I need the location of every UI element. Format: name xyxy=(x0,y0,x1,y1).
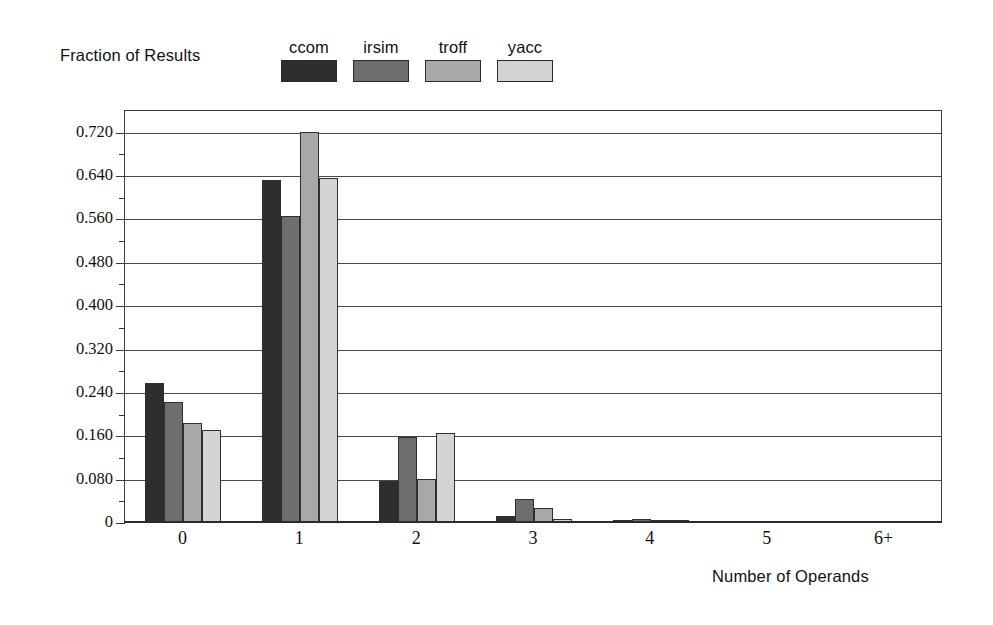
bar-yacc-2 xyxy=(436,433,455,522)
bar-troff-1 xyxy=(300,132,319,522)
legend-label-irsim: irsim xyxy=(363,38,398,57)
bar-group-2 xyxy=(379,111,455,522)
y-axis-tick-label: 0.640 xyxy=(76,165,113,185)
y-axis-tick-labels: 00.0800.1600.2400.3200.4000.4800.5600.64… xyxy=(0,110,113,522)
bar-group-3 xyxy=(496,111,572,522)
bar-ccom-1 xyxy=(262,180,281,522)
y-axis-minor-tick xyxy=(119,154,125,155)
x-axis-tick-labels: 0123456+ xyxy=(124,528,942,558)
bar-irsim-2 xyxy=(398,437,417,522)
y-axis-tick-label: 0.720 xyxy=(76,122,113,142)
x-axis-tick-label: 0 xyxy=(178,528,187,549)
y-axis-minor-tick xyxy=(119,501,125,502)
bar-troff-0 xyxy=(183,423,202,522)
x-axis-tick-label: 2 xyxy=(412,528,421,549)
bar-group-6plus xyxy=(847,111,923,522)
y-axis-minor-tick xyxy=(119,241,125,242)
y-axis-tick xyxy=(116,219,125,220)
bar-troff-2 xyxy=(417,479,436,522)
legend-entry-irsim: irsim xyxy=(350,38,412,82)
legend-swatch-irsim xyxy=(353,60,409,82)
plot-area xyxy=(124,110,942,522)
x-axis-line xyxy=(124,521,942,523)
x-axis-title: Number of Operands xyxy=(712,567,869,586)
bar-irsim-1 xyxy=(281,216,300,522)
legend-label-yacc: yacc xyxy=(508,38,542,57)
bar-ccom-0 xyxy=(145,383,164,522)
y-axis-tick xyxy=(116,350,125,351)
bar-ccom-2 xyxy=(379,481,398,522)
x-axis-tick-label: 1 xyxy=(295,528,304,549)
bar-irsim-3 xyxy=(515,499,534,522)
bar-irsim-0 xyxy=(164,402,183,522)
y-axis-tick-label: 0.560 xyxy=(76,208,113,228)
plot-inner xyxy=(125,111,941,522)
legend-swatch-troff xyxy=(425,60,481,82)
y-axis-minor-tick xyxy=(119,284,125,285)
bar-group-5 xyxy=(730,111,806,522)
x-axis-tick-label: 4 xyxy=(645,528,654,549)
bar-yacc-0 xyxy=(202,430,221,522)
y-axis-title: Fraction of Results xyxy=(60,46,200,65)
y-axis-tick xyxy=(116,263,125,264)
y-axis-tick xyxy=(116,436,125,437)
bar-group-0 xyxy=(145,111,221,522)
y-axis-tick xyxy=(116,480,125,481)
bar-group-4 xyxy=(613,111,689,522)
y-axis-minor-tick xyxy=(119,371,125,372)
y-axis-tick xyxy=(116,523,125,524)
y-axis-tick xyxy=(116,133,125,134)
bar-troff-3 xyxy=(534,508,553,522)
x-axis-tick-label: 6+ xyxy=(874,528,893,549)
y-axis-minor-tick xyxy=(119,415,125,416)
legend-entry-ccom: ccom xyxy=(278,38,340,82)
y-axis-tick xyxy=(116,176,125,177)
y-axis-tick-label: 0 xyxy=(105,512,113,532)
y-axis-minor-tick xyxy=(119,198,125,199)
y-axis-tick-label: 0.240 xyxy=(76,382,113,402)
bar-chart-figure: Fraction of Results ccom irsim troff yac… xyxy=(0,0,993,625)
y-axis-tick-label: 0.480 xyxy=(76,252,113,272)
y-axis-minor-tick xyxy=(119,458,125,459)
legend-label-troff: troff xyxy=(439,38,468,57)
x-axis-tick-label: 3 xyxy=(529,528,538,549)
y-axis-minor-tick xyxy=(119,328,125,329)
y-axis-tick-label: 0.160 xyxy=(76,425,113,445)
bar-yacc-1 xyxy=(319,178,338,522)
bar-group-1 xyxy=(262,111,338,522)
y-axis-tick-label: 0.320 xyxy=(76,339,113,359)
legend-entry-troff: troff xyxy=(422,38,484,82)
legend-swatch-ccom xyxy=(281,60,337,82)
legend-entry-yacc: yacc xyxy=(494,38,556,82)
legend-swatch-yacc xyxy=(497,60,553,82)
y-axis-tick xyxy=(116,306,125,307)
y-axis-tick xyxy=(116,393,125,394)
y-axis-tick-label: 0.400 xyxy=(76,295,113,315)
legend-label-ccom: ccom xyxy=(289,38,329,57)
x-axis-tick-label: 5 xyxy=(762,528,771,549)
chart-legend: ccom irsim troff yacc xyxy=(278,38,556,82)
y-axis-tick-label: 0.080 xyxy=(76,469,113,489)
